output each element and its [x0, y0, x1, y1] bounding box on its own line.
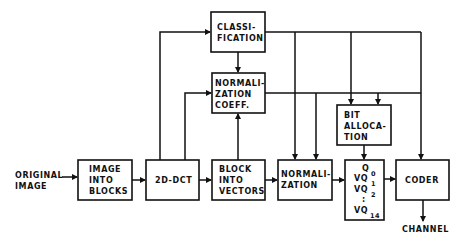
block-label: CLASSI-: [217, 23, 256, 32]
block-label: BLOCKS: [89, 187, 128, 196]
block-diagram: ORIGINAL IMAGE IMAGE INTO BLOCKS 2D-DCT …: [0, 0, 466, 245]
image-into-blocks-block: IMAGE INTO BLOCKS: [78, 160, 132, 200]
block-label: INTO: [89, 176, 113, 185]
vq-label: VQ: [354, 206, 368, 215]
block-label: COEFF.: [215, 101, 250, 110]
block-label: CODER: [405, 176, 439, 185]
input-label-line: IMAGE: [15, 182, 47, 191]
block-label: INTO: [219, 176, 243, 185]
vq-subscript: 0: [371, 170, 376, 178]
bit-allocation-block: BIT ALLOCA- TION: [337, 105, 391, 145]
coder-block: CODER: [396, 160, 449, 200]
normalization-coeff-block: NORMALI- ZATION COEFF.: [212, 73, 265, 113]
block-label: ZATION: [281, 181, 318, 190]
dct-block: 2D-DCT: [146, 160, 199, 200]
classification-block: CLASSI- FICATION: [211, 12, 265, 52]
block-label: ALLOCA-: [344, 122, 387, 131]
block-into-vectors-block: BLOCK INTO VECTORS: [212, 160, 265, 200]
vq-subscript: 1: [371, 180, 376, 188]
vq-label: Q: [362, 164, 369, 173]
block-label: BIT: [344, 111, 360, 120]
block-label: TION: [344, 133, 368, 142]
block-label: 2D-DCT: [155, 176, 192, 185]
vq-label: VQ: [354, 185, 368, 194]
block-label: BLOCK: [219, 165, 252, 174]
vq-ellipsis: :: [362, 195, 366, 204]
block-label: NORMALI-: [215, 79, 265, 88]
normalization-block: NORMALI- ZATION: [278, 160, 332, 200]
vq-block: Q 0 VQ 1 VQ 2 : VQ 14: [345, 160, 384, 220]
block-label: VECTORS: [219, 187, 265, 196]
block-label: NORMALI-: [281, 170, 331, 179]
block-label: IMAGE: [89, 165, 121, 174]
vq-subscript: 2: [371, 191, 376, 199]
original-image-label: ORIGINAL IMAGE: [15, 171, 63, 191]
block-label: ZATION: [215, 90, 252, 99]
input-label-line: ORIGINAL: [15, 171, 63, 180]
channel-label: CHANNEL: [402, 225, 449, 234]
block-label: FICATION: [217, 34, 264, 43]
vq-label: VQ: [354, 174, 368, 183]
vq-subscript: 14: [370, 212, 380, 220]
